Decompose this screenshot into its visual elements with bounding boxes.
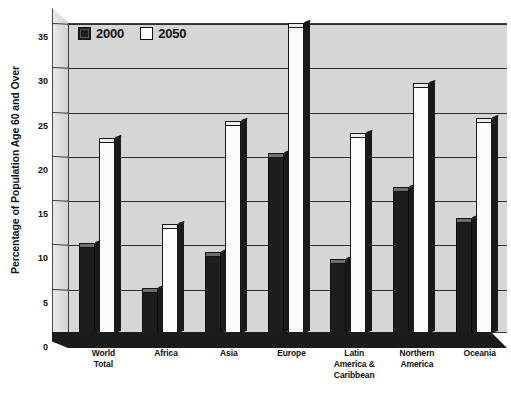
bar-2000	[456, 221, 472, 333]
bar-top-cap	[350, 133, 366, 138]
bar-front-face	[79, 246, 95, 333]
bar-side-face	[241, 122, 247, 333]
bar-side-face	[178, 225, 184, 333]
bar-2050	[413, 86, 429, 333]
bar-group	[456, 23, 492, 333]
dark-swatch-icon	[78, 27, 91, 40]
bar-top-cap	[393, 187, 409, 192]
bar-group	[79, 23, 115, 333]
depth-gridline	[53, 112, 69, 114]
bar-top-cap	[205, 252, 221, 257]
y-axis-tick-label: 20	[26, 165, 48, 175]
bar-top-cap	[225, 121, 241, 126]
bar-2050	[99, 141, 115, 333]
bar-2050	[288, 26, 304, 333]
bar-side-face	[115, 139, 121, 333]
y-axis-tick-labels: 05101520253035	[26, 0, 48, 396]
chart-legend: 20002050	[78, 26, 186, 41]
x-axis-label-line: Caribbean	[309, 370, 399, 381]
bar-front-face	[288, 26, 304, 333]
bar-front-face	[268, 156, 284, 333]
y-axis-title-text: Percentage of Population Age 60 and Over	[9, 66, 21, 274]
bar-2000	[142, 291, 158, 334]
bar-2000	[268, 156, 284, 333]
depth-gridline	[53, 200, 69, 202]
bar-2000	[79, 246, 95, 333]
bar-top-cap	[142, 288, 158, 293]
bar-top-cap	[79, 243, 95, 248]
plot-left-depth-wall	[52, 8, 69, 348]
depth-gridline	[53, 67, 69, 69]
y-axis-title: Percentage of Population Age 60 and Over	[4, 0, 26, 340]
y-axis-tick-label: 15	[26, 209, 48, 219]
bar-chart: Percentage of Population Age 60 and Over…	[0, 0, 511, 396]
bar-2000	[393, 190, 409, 333]
bar-group	[268, 23, 304, 333]
depth-gridline	[53, 244, 69, 246]
x-axis-label-line: Oceania	[435, 348, 511, 359]
legend-item: 2000	[78, 26, 124, 41]
bar-2050	[162, 227, 178, 333]
bar-front-face	[330, 262, 346, 333]
y-axis-tick-label: 5	[26, 298, 48, 308]
depth-gridline	[53, 289, 69, 291]
bars-layer	[68, 23, 507, 333]
bar-front-face	[225, 124, 241, 333]
bar-2050	[225, 124, 241, 333]
bar-2000	[330, 262, 346, 333]
bar-group	[393, 23, 429, 333]
bar-front-face	[205, 255, 221, 333]
bar-top-cap	[99, 138, 115, 143]
bar-front-face	[142, 291, 158, 334]
bar-side-face	[366, 134, 372, 333]
bar-side-face	[304, 23, 310, 333]
bar-top-cap	[476, 118, 492, 123]
depth-gridline	[53, 23, 69, 25]
legend-label: 2050	[158, 26, 186, 41]
x-axis-label-line: Total	[58, 359, 148, 370]
bar-front-face	[99, 141, 115, 333]
bar-top-cap	[456, 218, 472, 223]
bar-front-face	[350, 136, 366, 333]
depth-gridline	[53, 156, 69, 158]
x-axis-tick-label: Oceania	[435, 348, 511, 359]
bar-top-cap	[413, 83, 429, 88]
bar-top-cap	[268, 153, 284, 158]
bar-2050	[476, 121, 492, 333]
bar-front-face	[393, 190, 409, 333]
legend-label: 2000	[96, 26, 124, 41]
bar-side-face	[492, 119, 498, 333]
plot-floor	[52, 332, 507, 348]
light-swatch-icon	[140, 27, 153, 40]
y-axis-tick-label: 0	[26, 342, 48, 352]
bar-side-face	[429, 84, 435, 333]
bar-group	[330, 23, 366, 333]
bar-front-face	[413, 86, 429, 333]
y-axis-tick-label: 25	[26, 121, 48, 131]
x-axis-label-line: America	[372, 359, 462, 370]
bar-2000	[205, 255, 221, 333]
bar-group	[142, 23, 178, 333]
x-axis-tick-labels: WorldTotalAfricaAsiaEuropeLatinAmerica &…	[52, 348, 507, 396]
legend-item: 2050	[140, 26, 186, 41]
bar-top-cap	[162, 224, 178, 229]
y-axis-tick-label: 30	[26, 76, 48, 86]
bar-2050	[350, 136, 366, 333]
bar-front-face	[476, 121, 492, 333]
bar-front-face	[162, 227, 178, 333]
y-axis-tick-label: 35	[26, 32, 48, 42]
bar-group	[205, 23, 241, 333]
bar-top-cap	[330, 259, 346, 264]
bar-top-cap	[288, 23, 304, 28]
bar-front-face	[456, 221, 472, 333]
plot-area	[52, 8, 507, 348]
y-axis-tick-label: 10	[26, 253, 48, 263]
